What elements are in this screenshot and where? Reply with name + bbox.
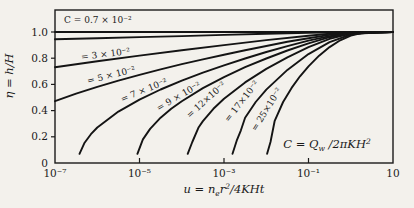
x-tick-label: 10⁻¹ (297, 167, 320, 179)
x-tick-label: 10⁻³ (212, 167, 235, 179)
x-tick-label: 10⁻⁷ (43, 167, 66, 179)
y-axis-title: η = h/H (2, 52, 16, 98)
curve-label: C = 0.7 × 10⁻² (64, 15, 132, 25)
legend-formula-superscript: 2 (365, 137, 371, 146)
x-axis-title: u = ner2/4KHt (184, 182, 265, 198)
y-tick-label: 0.8 (31, 52, 48, 64)
x-tick-label: 10⁻⁵ (128, 167, 151, 179)
y-tick-label: 0 (41, 157, 48, 169)
y-tick-label: 0.6 (31, 78, 48, 90)
legend-formula-part: /2πKH (325, 137, 367, 151)
legend-formula: C = Qw /2πKH2 (283, 137, 371, 153)
x-tick-label: 10 (386, 167, 399, 179)
legend-formula-part: C = Q (283, 137, 319, 151)
x-axis-title-part: u = n (184, 182, 216, 196)
y-tick-label: 0.2 (31, 130, 48, 142)
y-tick-label: 0.4 (31, 104, 48, 116)
y-tick-label: 1.0 (31, 26, 48, 38)
x-axis-title-part: /4KHt (229, 182, 265, 196)
figure-canvas: C = 0.7 × 10⁻²= 3 × 10⁻²= 5 × 10⁻²= 7 × … (0, 0, 414, 208)
